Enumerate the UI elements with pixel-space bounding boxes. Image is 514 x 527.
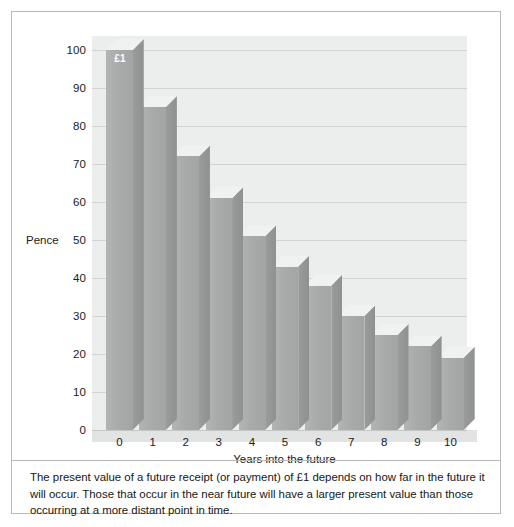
x-axis-tick-label: 7 xyxy=(334,436,368,448)
x-axis-tick-label: 6 xyxy=(301,436,335,448)
x-axis-tick-label: 1 xyxy=(136,436,170,448)
bar-side-face xyxy=(199,145,210,430)
bar-side-face xyxy=(464,347,475,430)
bar-side-face xyxy=(166,96,177,430)
bar-side-face xyxy=(364,305,375,430)
x-axis-tick-label: 8 xyxy=(367,436,401,448)
bar-front-face xyxy=(106,50,132,430)
x-axis-tick-label: 4 xyxy=(235,436,269,448)
bar-value-label-year-0: £1 xyxy=(114,53,126,64)
figure-caption: The present value of a future receipt (o… xyxy=(30,469,485,519)
x-axis-tick-label: 3 xyxy=(202,436,236,448)
x-axis-title: Years into the future xyxy=(92,453,477,465)
chart-area: 0102030405060708090100 Pence £1 01234567… xyxy=(12,12,500,452)
bar-side-face xyxy=(298,256,309,430)
bar-year-0 xyxy=(106,39,132,430)
x-axis-tick-label: 9 xyxy=(400,436,434,448)
x-axis-tick-label: 2 xyxy=(169,436,203,448)
bar-side-face xyxy=(331,275,342,430)
bar-side-face xyxy=(398,324,409,430)
figure-panel: 0102030405060708090100 Pence £1 01234567… xyxy=(11,11,501,514)
x-axis-tick-label: 10 xyxy=(433,436,467,448)
caption-divider xyxy=(12,460,500,461)
bar-side-face xyxy=(133,39,144,430)
bar-side-face xyxy=(431,335,442,430)
bar-side-face xyxy=(232,187,243,430)
x-axis-tick-label: 0 xyxy=(103,436,137,448)
bar-side-face xyxy=(265,225,276,430)
x-axis-tick-label: 5 xyxy=(268,436,302,448)
